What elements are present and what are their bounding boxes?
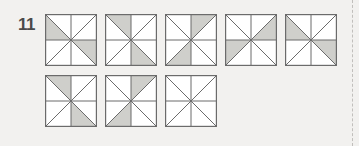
square-8[interactable] — [165, 75, 217, 127]
figure-row — [45, 14, 337, 66]
square-1[interactable] — [45, 14, 97, 66]
square-2[interactable] — [105, 14, 157, 66]
square-5[interactable] — [285, 14, 337, 66]
page-margin-rule — [352, 0, 353, 146]
square-6[interactable] — [45, 75, 97, 127]
square-3[interactable] — [165, 14, 217, 66]
page-canvas: 11 — [0, 0, 359, 146]
question-number: 11 — [18, 16, 35, 33]
figure-grid — [45, 14, 337, 127]
square-7[interactable] — [105, 75, 157, 127]
square-4[interactable] — [225, 14, 277, 66]
figure-row — [45, 75, 337, 127]
